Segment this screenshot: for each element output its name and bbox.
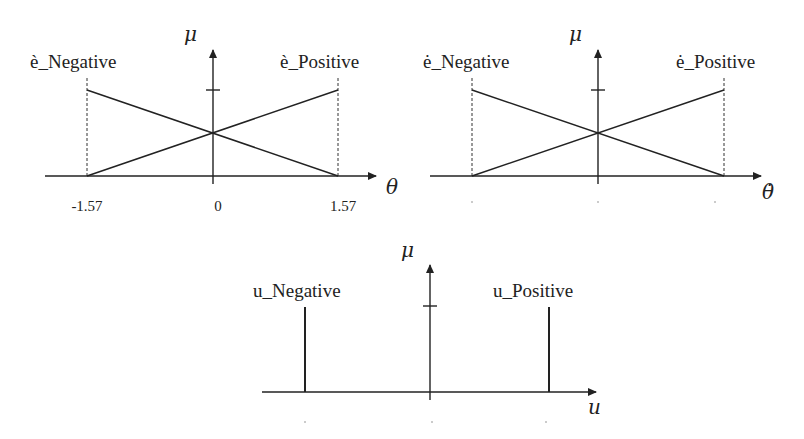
theta-tick-neg: -1.57 xyxy=(71,198,103,214)
fuzzy-membership-figure: μ è_Negative è_Positive θ -1.57 0 1.57 μ… xyxy=(0,0,804,439)
theta-x-label: θ xyxy=(386,175,398,199)
u-tick-mark-center xyxy=(431,421,433,423)
u-membership-diagram: μ u_Negative u_Positive u xyxy=(253,238,601,423)
theta-dot-tick-mark-left xyxy=(471,201,473,203)
theta-tick-pos: 1.57 xyxy=(330,198,357,214)
u-tick-mark-right xyxy=(545,421,547,423)
theta-dot-tick-mark-right xyxy=(714,201,716,203)
theta-tick-zero: 0 xyxy=(214,198,222,214)
u-positive-label: u_Positive xyxy=(493,280,573,301)
u-mu-label: μ xyxy=(401,238,414,262)
theta-dot-negative-label: ė_Negative xyxy=(423,51,510,72)
theta-positive-label: è_Positive xyxy=(280,51,359,72)
theta-dot-membership-diagram: μ ė_Negative ė_Positive θ̇ xyxy=(423,22,774,204)
u-tick-mark-left xyxy=(304,421,306,423)
theta-dot-tick-mark-center xyxy=(597,201,599,203)
theta-dot-x-label: θ̇ xyxy=(762,180,774,204)
theta-dot-mu-label: μ xyxy=(569,22,582,46)
theta-mu-label: μ xyxy=(184,22,197,46)
theta-negative-label: è_Negative xyxy=(30,51,117,72)
u-x-label: u xyxy=(588,395,601,419)
theta-dot-positive-label: ė_Positive xyxy=(676,51,755,72)
u-negative-label: u_Negative xyxy=(253,280,341,301)
theta-membership-diagram: μ è_Negative è_Positive θ -1.57 0 1.57 xyxy=(30,22,398,214)
